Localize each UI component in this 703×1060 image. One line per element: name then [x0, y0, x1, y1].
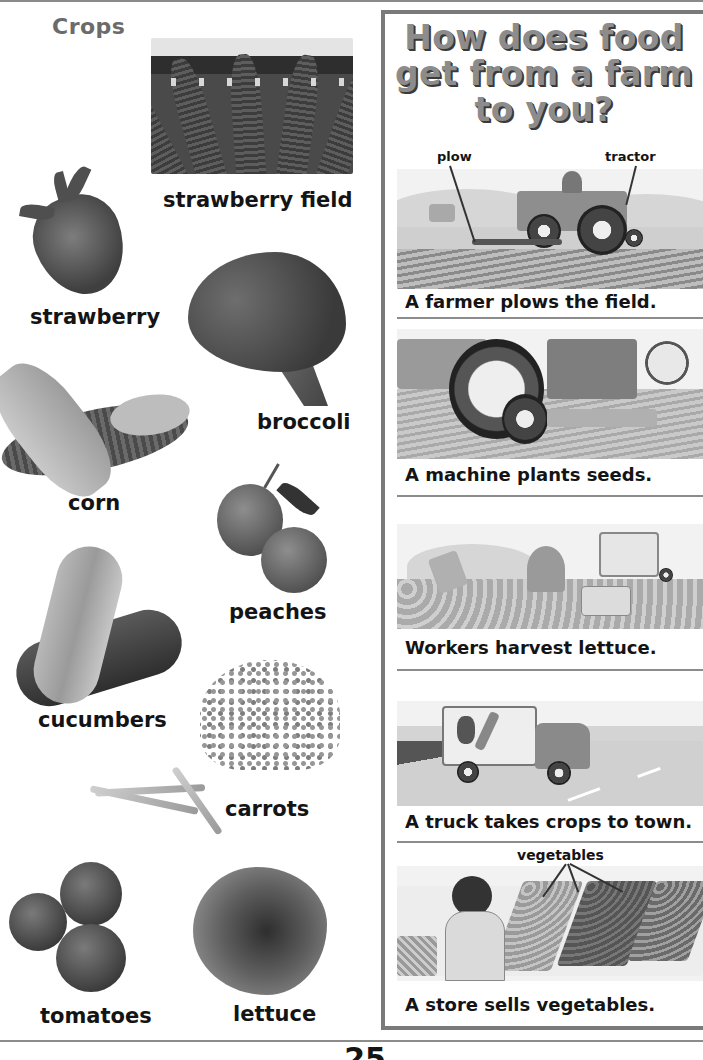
step-transport: A truck takes crops to town.: [397, 671, 703, 846]
step-caption: A truck takes crops to town.: [405, 811, 692, 832]
lettuce-photo: [193, 867, 327, 995]
label-broccoli: broccoli: [257, 410, 351, 434]
callout-plow: plow: [437, 149, 472, 164]
broccoli-photo: [188, 252, 346, 372]
panel-title: How does food get from a farm to you?: [385, 20, 703, 128]
label-tomatoes: tomatoes: [40, 1004, 152, 1028]
step-harvesting: Workers harvest lettuce.: [397, 499, 703, 674]
peach-leaf: [276, 478, 319, 519]
illustration-lettuce-harvest: [397, 524, 703, 629]
callout-tractor: tractor: [605, 149, 656, 164]
step-plow: plow tractor A farmer plows the field.: [397, 134, 703, 319]
farm-to-you-panel: How does food get from a farm to you? pl…: [381, 10, 703, 1030]
strawberry-field-photo: [151, 38, 353, 174]
label-lettuce: lettuce: [233, 1002, 316, 1026]
step-caption: A machine plants seeds.: [405, 464, 652, 485]
label-cucumbers: cucumbers: [38, 708, 167, 732]
peach-photo: [261, 527, 327, 593]
title-line: to you?: [385, 92, 703, 128]
carrot-greens: [200, 660, 340, 770]
tomato-photo: [9, 893, 67, 951]
title-line: How does food: [385, 20, 703, 56]
illustration-planting-machine: [397, 329, 703, 459]
label-strawberry-field: strawberry field: [163, 188, 353, 212]
label-peaches: peaches: [229, 600, 327, 624]
step-store: vegetables A store sells vegetables.: [397, 844, 703, 1034]
strawberry-photo: [22, 183, 139, 307]
top-rule: [0, 0, 703, 2]
carrot-photo: [171, 766, 223, 836]
label-corn: corn: [68, 491, 120, 515]
divider: [397, 495, 703, 497]
illustration-farmer-plowing: [397, 169, 703, 289]
illustration-truck: [397, 701, 703, 806]
divider: [397, 841, 703, 843]
label-carrots: carrots: [225, 797, 309, 821]
label-strawberry: strawberry: [30, 305, 160, 329]
title-line: get from a farm: [385, 56, 703, 92]
tomato-photo: [56, 924, 126, 992]
tomato-photo: [60, 862, 122, 926]
step-caption: A farmer plows the field.: [405, 291, 657, 312]
step-planting: A machine plants seeds.: [397, 319, 703, 499]
step-caption: Workers harvest lettuce.: [405, 637, 657, 658]
callout-vegetables: vegetables: [517, 847, 604, 863]
step-caption: A store sells vegetables.: [405, 994, 655, 1015]
peach-stem: [263, 463, 280, 489]
crops-title: Crops: [52, 14, 125, 39]
page-number: 25: [330, 1044, 400, 1060]
